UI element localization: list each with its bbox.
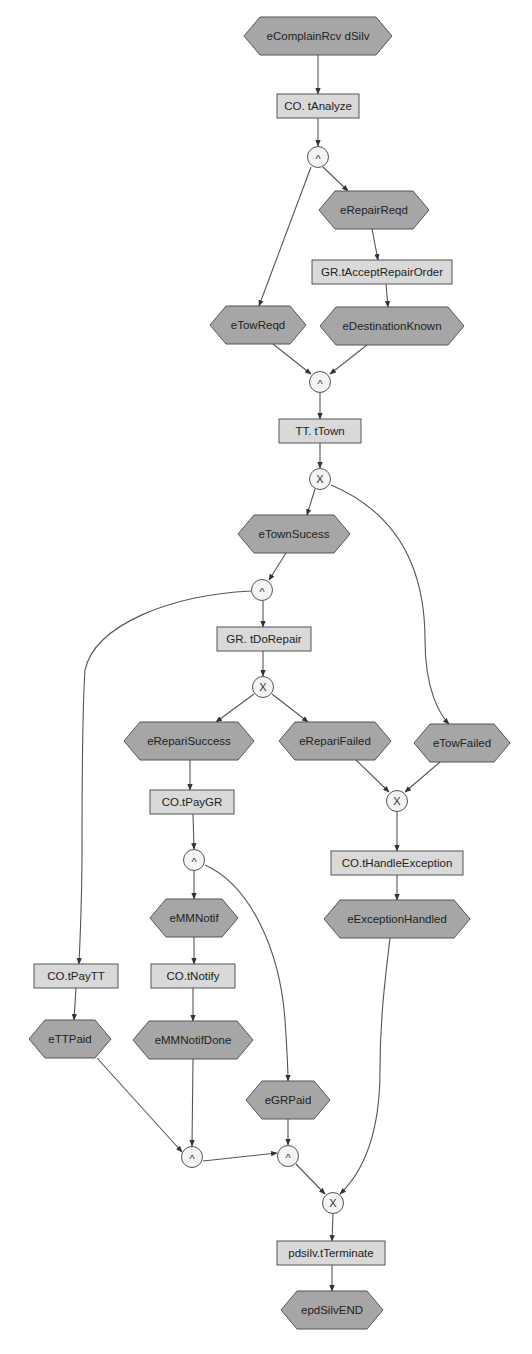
event-node-eexceptionhandled[interactable]: eExceptionHandled bbox=[324, 900, 470, 938]
event-node-emmnotifdone[interactable]: eMMNotifDone bbox=[133, 1021, 253, 1059]
event-label: eMMNotif bbox=[169, 912, 219, 924]
event-label: eTowReqd bbox=[231, 319, 285, 331]
gateway-xor-10[interactable]: X bbox=[323, 1193, 344, 1214]
edge-etownsucess-to-g-and-3 bbox=[269, 553, 286, 580]
event-node-ettpaid[interactable]: eTTPaid bbox=[29, 1020, 111, 1058]
task-node-gr-tdorepair[interactable]: GR. tDoRepair bbox=[217, 627, 311, 651]
event-node-etowreqd[interactable]: eTowReqd bbox=[210, 306, 306, 344]
and-gateway-symbol-icon: ^ bbox=[315, 153, 321, 165]
task-node-pdsilv-tterminate[interactable]: pdsilv.tTerminate bbox=[277, 1241, 385, 1265]
event-node-etownsucess[interactable]: eTownSucess bbox=[238, 515, 350, 553]
event-label: eComplainRcv dSilv bbox=[267, 30, 370, 42]
edge-etowfailed-to-g-xor-3 bbox=[405, 762, 440, 792]
and-gateway-symbol-icon: ^ bbox=[191, 856, 197, 868]
event-label: eMMNotifDone bbox=[155, 1034, 232, 1046]
event-label: eGRPaid bbox=[265, 1094, 312, 1106]
task-node-co-tanalyze[interactable]: CO. tAnalyze bbox=[277, 94, 359, 118]
event-label: eTowFailed bbox=[433, 737, 491, 749]
task-label: CO.tPayGR bbox=[162, 796, 223, 808]
edge-g-and-5-to-g-and-6 bbox=[203, 1153, 277, 1161]
edge-g-xor-1-to-etowfailed bbox=[331, 485, 449, 724]
process-diagram: eComplainRcv dSilveRepairReqdeTowReqdeDe… bbox=[0, 0, 532, 1354]
gateway-xor-6[interactable]: X bbox=[387, 791, 408, 812]
task-node-co-tnotify[interactable]: CO.tNotify bbox=[151, 964, 235, 988]
gateway-xor-5[interactable]: X bbox=[253, 677, 274, 698]
event-label: eRepariSuccess bbox=[147, 735, 231, 747]
event-node-edestinationknown[interactable]: eDestinationKnown bbox=[320, 307, 464, 345]
and-gateway-symbol-icon: ^ bbox=[259, 586, 265, 598]
and-gateway-symbol-icon: ^ bbox=[317, 378, 323, 390]
task-label: CO.tPayTT bbox=[47, 970, 105, 982]
edge-erepairreqd-to-gr-tacceptrepairorder bbox=[372, 229, 378, 260]
event-label: eRepairReqd bbox=[340, 204, 408, 216]
gateway-and-1[interactable]: ^ bbox=[308, 147, 329, 168]
event-node-ereparisuccess[interactable]: eRepariSuccess bbox=[124, 722, 254, 760]
task-node-co-thandleexception[interactable]: CO.tHandleException bbox=[331, 851, 463, 875]
edge-ettpaid-to-g-and-5 bbox=[97, 1058, 182, 1152]
event-label: eDestinationKnown bbox=[342, 320, 441, 332]
event-node-ereparifailed[interactable]: eRepariFailed bbox=[279, 722, 391, 760]
edge-co-tpaytt-to-ettpaid bbox=[74, 988, 76, 1020]
tasks-layer: CO. tAnalyzeGR.tAcceptRepairOrderTT. tTo… bbox=[34, 94, 463, 1265]
event-node-erepairreqd[interactable]: eRepairReqd bbox=[319, 191, 429, 229]
events-layer: eComplainRcv dSilveRepairReqdeTowReqdeDe… bbox=[29, 17, 510, 1329]
edge-edestinationknown-to-g-and-2 bbox=[330, 345, 367, 374]
task-label: CO.tNotify bbox=[166, 970, 219, 982]
event-label: eExceptionHandled bbox=[347, 913, 447, 925]
task-node-tt-ttown[interactable]: TT. tTown bbox=[279, 419, 361, 443]
edge-co-tpaygr-to-g-and-4 bbox=[193, 814, 194, 849]
and-gateway-symbol-icon: ^ bbox=[189, 1153, 195, 1165]
gateway-and-2[interactable]: ^ bbox=[310, 372, 331, 393]
event-label: epdSilvEND bbox=[301, 1304, 363, 1316]
task-node-co-tpaytt[interactable]: CO.tPayTT bbox=[34, 964, 118, 988]
edge-g-xor-4-to-pdsilv-tterminate bbox=[332, 1214, 333, 1241]
gateway-and-8[interactable]: ^ bbox=[182, 1147, 203, 1168]
and-gateway-symbol-icon: ^ bbox=[285, 1152, 291, 1164]
edge-g-and-1-to-erepairreqd bbox=[323, 167, 348, 191]
task-node-gr-tacceptrepairorder[interactable]: GR.tAcceptRepairOrder bbox=[312, 260, 452, 284]
xor-gateway-symbol-icon: X bbox=[316, 473, 324, 485]
task-label: pdsilv.tTerminate bbox=[288, 1247, 373, 1259]
event-label: eRepariFailed bbox=[299, 735, 371, 747]
edge-emmnotifdone-to-g-and-5 bbox=[192, 1059, 193, 1146]
gateway-and-7[interactable]: ^ bbox=[184, 850, 205, 871]
event-node-emmnotif[interactable]: eMMNotif bbox=[150, 899, 238, 937]
event-node-ecomplainrcvdsilv[interactable]: eComplainRcv dSilv bbox=[244, 17, 392, 55]
edge-g-xor-1-to-etownsucess bbox=[307, 489, 315, 515]
event-node-egrpaid[interactable]: eGRPaid bbox=[246, 1081, 330, 1119]
task-label: CO. tAnalyze bbox=[284, 100, 352, 112]
xor-gateway-symbol-icon: X bbox=[393, 795, 401, 807]
xor-gateway-symbol-icon: X bbox=[329, 1197, 337, 1209]
task-label: GR. tDoRepair bbox=[226, 633, 302, 645]
task-node-co-tpaygr[interactable]: CO.tPayGR bbox=[150, 790, 234, 814]
event-label: eTTPaid bbox=[48, 1033, 91, 1045]
event-node-epdsilvend[interactable]: epdSilvEND bbox=[281, 1291, 383, 1329]
edge-g-and-6-to-g-xor-4 bbox=[296, 1164, 325, 1194]
edge-g-and-1-to-etowreqd bbox=[259, 167, 311, 306]
edge-etowreqd-to-g-and-2 bbox=[273, 344, 311, 374]
xor-gateway-symbol-icon: X bbox=[259, 681, 267, 693]
edge-g-xor-2-to-ereparisuccess bbox=[216, 694, 254, 722]
event-label: eTownSucess bbox=[259, 528, 330, 540]
edge-g-xor-2-to-ereparifailed bbox=[272, 694, 308, 722]
gateway-and-4[interactable]: ^ bbox=[252, 580, 273, 601]
edge-gr-tacceptrepairorder-to-edestinationknown bbox=[386, 284, 388, 307]
gateway-xor-3[interactable]: X bbox=[310, 469, 331, 490]
task-label: GR.tAcceptRepairOrder bbox=[321, 266, 443, 278]
task-label: TT. tTown bbox=[295, 425, 344, 437]
edge-ereparifailed-to-g-xor-3 bbox=[356, 760, 389, 792]
event-node-etowfailed[interactable]: eTowFailed bbox=[414, 724, 510, 762]
task-label: CO.tHandleException bbox=[342, 857, 453, 869]
edge-eexceptionhandled-to-g-xor-4 bbox=[340, 938, 390, 1194]
gateway-and-9[interactable]: ^ bbox=[278, 1146, 299, 1167]
